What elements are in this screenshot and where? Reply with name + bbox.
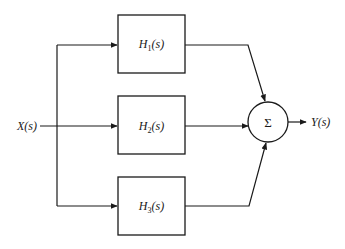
- block-diagram: X(s) H1(s) H2(s) H3(s) Σ Y(s): [0, 0, 345, 249]
- block-h3-label: H3(s): [138, 199, 164, 215]
- block-h3: H3(s): [118, 177, 185, 235]
- summing-junction: Σ: [248, 102, 288, 142]
- block-h2-label: H2(s): [138, 119, 164, 135]
- h1-to-summer-wire: [185, 45, 265, 101]
- block-h2: H2(s): [118, 96, 185, 154]
- input-label: X(s): [16, 119, 37, 133]
- block-h1-label: H1(s): [138, 37, 164, 53]
- block-h1: H1(s): [118, 15, 185, 73]
- sigma-symbol: Σ: [264, 115, 272, 130]
- h3-to-summer-wire: [185, 143, 266, 206]
- output-label: Y(s): [311, 115, 330, 129]
